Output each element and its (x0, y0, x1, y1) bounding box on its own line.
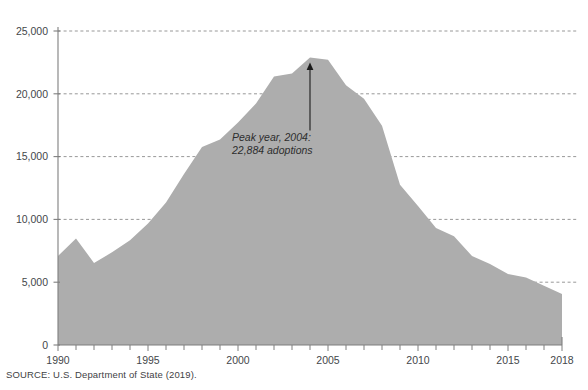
y-axis-tick-label: 0 (42, 339, 48, 351)
x-axis-tick-label: 2018 (550, 354, 574, 366)
x-axis-tick-label: 2015 (496, 354, 520, 366)
y-axis-labels-group: 05,00010,00015,00020,00025,000 (16, 25, 48, 351)
y-axis-tick-label: 5,000 (22, 276, 48, 288)
x-axis-tick-label: 2005 (316, 354, 340, 366)
x-axis-tick-label: 1990 (46, 354, 70, 366)
x-axis-tick-label: 1995 (136, 354, 160, 366)
y-axis-tick-label: 25,000 (16, 25, 48, 37)
y-axis-tick-label: 15,000 (16, 150, 48, 162)
annotation-line-1: Peak year, 2004: (232, 131, 311, 143)
x-axis-tick-label: 2000 (226, 354, 250, 366)
y-axis-tick-label: 20,000 (16, 88, 48, 100)
annotation-line-2: 22,884 adoptions (231, 144, 313, 156)
chart-figure: 05,00010,00015,00020,00025,000 199019952… (0, 0, 588, 390)
x-axis-labels-group: 1990199520002005201020152018 (46, 354, 574, 366)
source-note: SOURCE: U.S. Department of State (2019). (6, 369, 197, 380)
y-axis-tick-label: 10,000 (16, 213, 48, 225)
x-axis-tick-label: 2010 (406, 354, 430, 366)
area-chart: 05,00010,00015,00020,00025,000 199019952… (0, 0, 588, 390)
